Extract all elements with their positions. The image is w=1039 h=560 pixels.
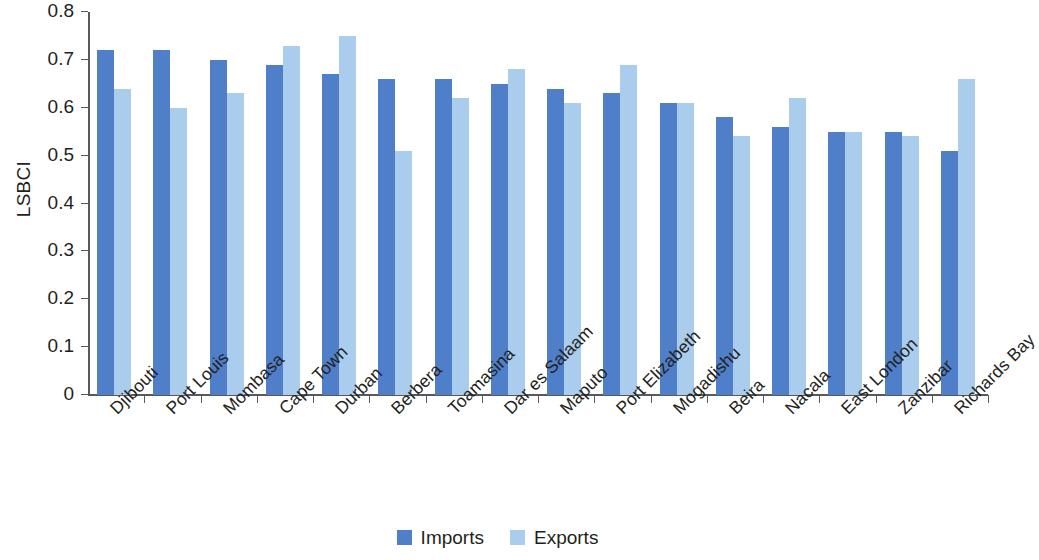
bar-group — [378, 12, 412, 395]
bar-group — [941, 12, 975, 395]
bar-imports — [97, 50, 114, 395]
bar-imports — [153, 50, 170, 395]
legend-swatch-icon — [397, 530, 412, 545]
x-axis-tick — [707, 395, 708, 403]
bar-group — [210, 12, 244, 395]
bar-exports — [114, 89, 131, 395]
x-axis-tick — [257, 395, 258, 403]
bar-exports — [170, 108, 187, 395]
bar-group — [97, 12, 131, 395]
x-axis-tick — [313, 395, 314, 403]
bar-imports — [772, 127, 789, 395]
bar-exports — [845, 132, 862, 395]
bar-exports — [227, 93, 244, 395]
y-axis-tick-label: 0 — [63, 383, 74, 405]
bar-group — [322, 12, 356, 395]
y-axis-title: LSBCI — [13, 129, 35, 249]
x-axis-tick — [988, 395, 989, 403]
y-axis-tick: 0.8 — [81, 11, 88, 12]
bar-imports — [435, 79, 452, 395]
bar-imports — [378, 79, 395, 395]
bar-exports — [283, 46, 300, 395]
legend-label: Imports — [421, 528, 484, 547]
bar-group — [603, 12, 637, 395]
bar-group — [266, 12, 300, 395]
plot-area: 0.80.70.60.50.40.30.20.10 — [88, 12, 988, 395]
x-axis-tick — [482, 395, 483, 403]
bar-imports — [266, 65, 283, 395]
bar-exports — [395, 151, 412, 395]
bar-exports — [508, 69, 525, 395]
y-axis-tick: 0.7 — [81, 59, 88, 60]
bar-imports — [828, 132, 845, 395]
y-axis-tick: 0.3 — [81, 250, 88, 251]
y-axis-tick-label: 0.1 — [48, 335, 74, 357]
y-axis-tick-label: 0.4 — [48, 192, 74, 214]
x-axis-tick — [819, 395, 820, 403]
y-axis-tick: 0.1 — [81, 346, 88, 347]
x-axis-tick — [876, 395, 877, 403]
y-axis-tick-label: 0.7 — [48, 48, 74, 70]
x-axis-tick — [426, 395, 427, 403]
y-axis-tick: 0 — [81, 394, 88, 395]
bar-group — [491, 12, 525, 395]
bar-group — [828, 12, 862, 395]
y-axis-tick: 0.4 — [81, 203, 88, 204]
bar-imports — [603, 93, 620, 395]
y-axis-line — [88, 12, 90, 395]
bar-exports — [958, 79, 975, 395]
x-axis-tick — [932, 395, 933, 403]
x-axis-tick — [538, 395, 539, 403]
y-axis-tick-label: 0.6 — [48, 96, 74, 118]
y-axis-tick-label: 0.2 — [48, 287, 74, 309]
bar-exports — [620, 65, 637, 395]
x-axis-tick — [144, 395, 145, 403]
y-axis-tick: 0.6 — [81, 107, 88, 108]
legend-item-imports[interactable]: Imports — [397, 528, 484, 547]
x-axis-tick — [201, 395, 202, 403]
bar-exports — [339, 36, 356, 395]
y-axis-tick: 0.2 — [81, 298, 88, 299]
y-axis-tick-label: 0.3 — [48, 239, 74, 261]
legend-label: Exports — [534, 528, 598, 547]
y-axis-tick: 0.5 — [81, 155, 88, 156]
x-axis-tick — [369, 395, 370, 403]
bar-exports — [452, 98, 469, 395]
y-axis-tick-label: 0.5 — [48, 144, 74, 166]
x-axis-tick — [594, 395, 595, 403]
legend-swatch-icon — [510, 530, 525, 545]
bar-exports — [789, 98, 806, 395]
bar-group — [435, 12, 469, 395]
legend-item-exports[interactable]: Exports — [510, 528, 598, 547]
bar-imports — [210, 60, 227, 395]
bar-group — [716, 12, 750, 395]
bar-group — [153, 12, 187, 395]
x-axis-tick — [651, 395, 652, 403]
chart-legend: ImportsExports — [0, 528, 995, 547]
y-axis-tick-label: 0.8 — [48, 0, 74, 22]
bar-group — [772, 12, 806, 395]
x-axis-tick — [763, 395, 764, 403]
